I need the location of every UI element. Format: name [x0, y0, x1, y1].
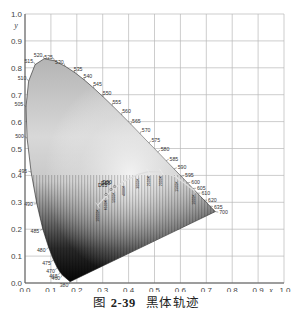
wavelength-label: 595 [185, 172, 194, 178]
wavelength-label: 525 [44, 54, 53, 60]
spectral-locus-area [26, 59, 215, 282]
y-axis-label: y [13, 21, 18, 30]
y-tick-label: 0.6 [11, 118, 23, 127]
temperature-label: 1000K [192, 194, 196, 205]
y-tick-label: 0.7 [11, 91, 23, 100]
wavelength-label: 475 [42, 260, 51, 266]
illuminant-label: D65 [98, 182, 107, 188]
wavelength-label: 485 [31, 228, 40, 234]
temperature-label: 6500K [104, 199, 108, 210]
wavelength-label: 530 [55, 59, 64, 65]
y-tick-label: 0.9 [11, 37, 23, 46]
temperature-label: 4000K [122, 185, 126, 196]
caption-number: 2-39 [111, 296, 136, 310]
wavelength-label: 480 [37, 247, 46, 253]
wavelength-label: 585 [170, 156, 179, 162]
wavelength-label: 580 [161, 146, 170, 152]
caption-title: 黑体轨迹 [146, 295, 200, 310]
y-tick-label: 0.1 [11, 252, 23, 261]
wavelength-label: 515 [24, 58, 33, 64]
wavelength-label: 535 [74, 66, 83, 72]
temperature-label: 3000K [136, 178, 140, 189]
wavelength-label: 550 [103, 90, 112, 96]
wavelength-label: 575 [151, 137, 160, 143]
wavelength-label: 545 [93, 81, 102, 87]
wavelength-label: 570 [142, 127, 151, 133]
temperature-label: 2000K [159, 175, 163, 186]
temperature-label: 1500K [175, 181, 179, 192]
wavelength-label: 565 [132, 118, 141, 124]
figure-caption: 图2-39黑体轨迹 [0, 292, 293, 311]
wavelength-label: 500 [15, 133, 24, 139]
wavelength-label: 505 [15, 101, 24, 107]
cie-chromaticity-chart: 1000K1500K2000K2500K3000K4000K5000K6500K… [0, 0, 293, 292]
y-tick-label: 1.0 [11, 10, 23, 19]
y-tick-label: 0.3 [11, 198, 23, 207]
temperature-label: 5000K [112, 192, 116, 203]
wavelength-label: 610 [201, 190, 210, 196]
y-tick-label: 0.2 [11, 225, 23, 234]
wavelength-label: 470 [46, 268, 55, 274]
wavelength-label: 560 [122, 108, 131, 114]
wavelength-label: 520 [34, 52, 43, 58]
y-tick-label: 0.4 [11, 171, 23, 180]
y-tick-label: 0.8 [11, 64, 23, 73]
wavelength-label: 540 [84, 73, 93, 79]
y-tick-label: 0.5 [11, 145, 23, 154]
temperature-label: 10000K [96, 209, 100, 222]
wavelength-label: 620 [208, 197, 217, 203]
wavelength-label: 590 [178, 164, 187, 170]
wavelength-label: 700 [219, 209, 228, 215]
caption-prefix: 图 [93, 295, 107, 310]
wavelength-label: 555 [112, 99, 121, 105]
temperature-label: 2500K [147, 175, 151, 186]
